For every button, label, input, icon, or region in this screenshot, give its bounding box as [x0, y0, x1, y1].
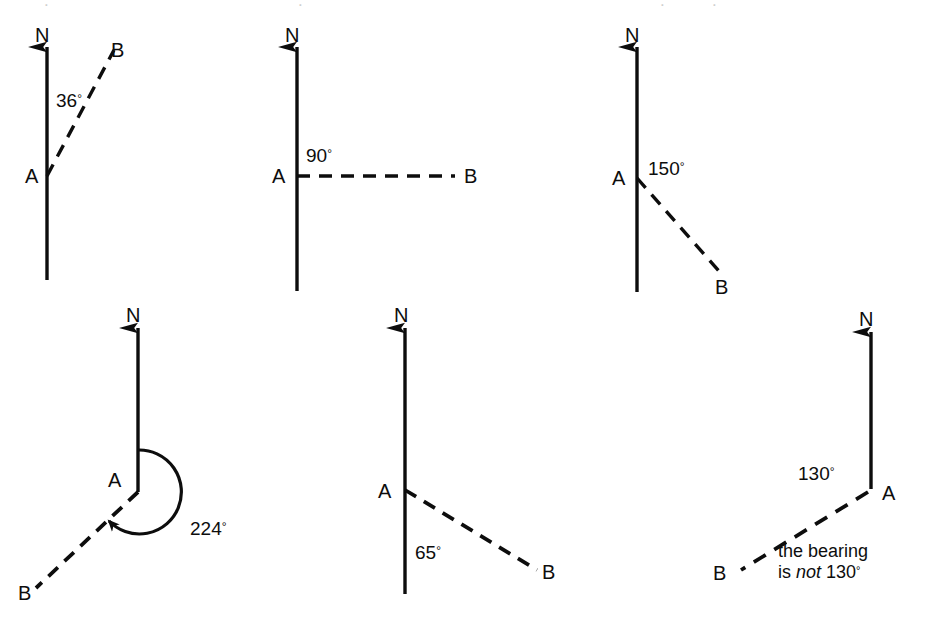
- target-label-b: B: [111, 40, 124, 60]
- degree-symbol: °: [436, 544, 441, 558]
- north-label: N: [126, 305, 140, 325]
- scan-artifact-mark: .: [660, 0, 665, 11]
- angle-value-130: 130°: [798, 464, 835, 483]
- figure-bearing-130-incorrect: [741, 332, 871, 570]
- note-line-2-suffix: 130: [821, 562, 856, 582]
- angle-value-90: 90°: [306, 146, 332, 165]
- origin-label-a: A: [882, 483, 895, 503]
- target-label-b: B: [715, 277, 728, 297]
- origin-label-a: A: [272, 166, 285, 186]
- north-label: N: [35, 25, 49, 45]
- scan-artifact-mark: .: [44, 0, 49, 11]
- degree-symbol: °: [856, 564, 860, 576]
- north-label: N: [285, 25, 299, 45]
- angle-value-150: 150°: [648, 159, 685, 178]
- angle-number: 224: [190, 518, 222, 539]
- figure-bearing-224: [36, 328, 181, 588]
- degree-symbol: °: [327, 147, 332, 161]
- origin-label-a: A: [612, 168, 625, 188]
- angle-number: 36: [56, 90, 77, 111]
- note-line-1: the bearing: [778, 541, 868, 562]
- bearing-ray-dashed: [36, 492, 138, 588]
- figure-bearing-90: [297, 47, 455, 291]
- angle-value-36: 36°: [56, 91, 82, 110]
- bearings-vector-canvas: [0, 0, 942, 617]
- scan-artifact-mark: .: [298, 0, 303, 11]
- note-line-2: is not 130°: [778, 562, 868, 583]
- angle-number: 90: [306, 145, 327, 166]
- degree-symbol: °: [222, 520, 227, 534]
- degree-symbol: °: [77, 92, 82, 106]
- angle-number: 65: [415, 542, 436, 563]
- target-label-b: B: [464, 166, 477, 186]
- origin-label-a: A: [378, 481, 391, 501]
- north-label: N: [394, 305, 408, 325]
- angle-value-65: 65°: [415, 543, 441, 562]
- angle-number: 130: [798, 463, 830, 484]
- degree-symbol: °: [680, 160, 685, 174]
- north-label: N: [859, 309, 873, 329]
- note-line-2-prefix: is: [778, 562, 796, 582]
- degree-symbol: °: [830, 465, 835, 479]
- angle-number: 150: [648, 158, 680, 179]
- scan-artifact-mark: .: [712, 0, 717, 11]
- north-label: N: [625, 25, 639, 45]
- target-label-b: B: [18, 583, 31, 603]
- bearing-ray-dashed: [47, 50, 114, 176]
- origin-label-a: A: [25, 166, 38, 186]
- bearing-angle-arc: [109, 450, 181, 534]
- origin-label-a: A: [108, 470, 121, 490]
- bearing-ray-dashed: [637, 178, 719, 271]
- angle-value-224: 224°: [190, 519, 227, 538]
- bearing-warning-note: the bearing is not 130°: [778, 541, 868, 582]
- target-label-b: B: [713, 563, 726, 583]
- figure-bearing-36: [47, 47, 114, 280]
- note-emphasis-not: not: [796, 562, 821, 582]
- target-label-b: B: [542, 562, 555, 582]
- bearings-figure-sheet: . . . . N B A 36° N B A 90° N B A 150° N…: [0, 0, 942, 617]
